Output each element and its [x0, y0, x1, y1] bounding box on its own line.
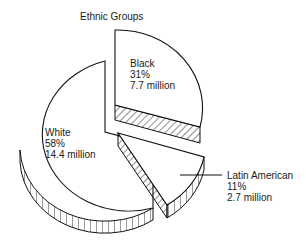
label-white-name: White — [45, 127, 96, 138]
label-black-name: Black — [130, 58, 175, 69]
chart-title: Ethnic Groups — [80, 11, 143, 22]
label-black: Black 31% 7.7 million — [130, 58, 175, 91]
label-black-value: 7.7 million — [130, 80, 175, 91]
chart-root: Ethnic Groups Black 31% 7.7 million Whit… — [0, 0, 306, 245]
label-latin-percent: 11% — [227, 181, 293, 192]
label-black-percent: 31% — [130, 69, 175, 80]
pie-chart — [0, 0, 306, 245]
label-white-value: 14.4 million — [45, 149, 96, 160]
label-latin-value: 2.7 million — [227, 192, 293, 203]
label-latin-name: Latin American — [227, 170, 293, 181]
label-white-percent: 58% — [45, 138, 96, 149]
label-white: White 58% 14.4 million — [45, 127, 96, 160]
label-latin-american: Latin American 11% 2.7 million — [227, 170, 293, 203]
